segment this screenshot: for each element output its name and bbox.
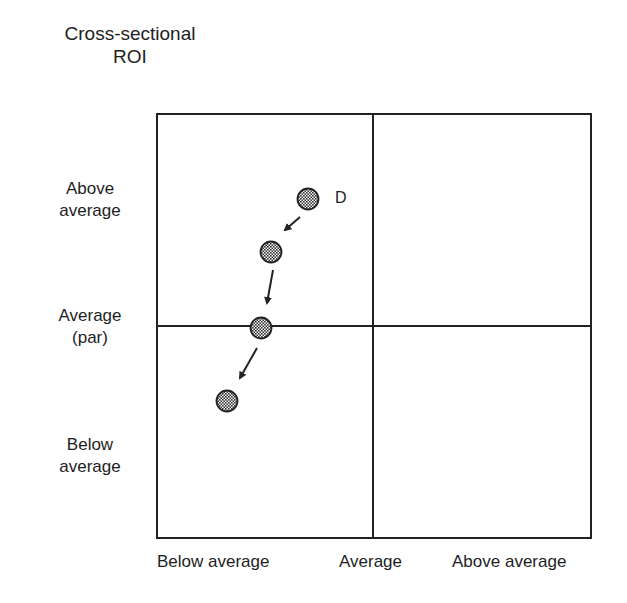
data-point-2 [261, 242, 282, 263]
trajectory-arrow-2 [267, 270, 273, 303]
quadrant-plot [0, 0, 627, 603]
data-point-3 [251, 318, 272, 339]
point-label-d: D [335, 189, 347, 207]
trajectory-arrow-1 [285, 217, 300, 230]
x-label-average: Average [339, 551, 402, 573]
x-label-above-average: Above average [452, 551, 566, 573]
x-label-below-average: Below average [157, 551, 269, 573]
data-point-1 [298, 189, 319, 210]
trajectory-arrow-3 [240, 348, 257, 378]
data-point-4 [217, 391, 238, 412]
